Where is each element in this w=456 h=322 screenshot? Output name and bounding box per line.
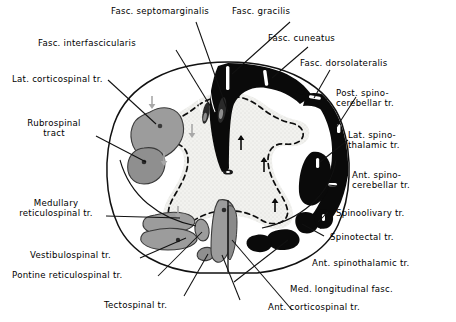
label-spinoolivary: Spinoolivary tr. — [336, 208, 405, 218]
label-fasc-cuneatus: Fasc. cuneatus — [268, 33, 335, 43]
label-lat-corticospinal: Lat. corticospinal tr. — [12, 74, 103, 84]
label-fasc-dorsolateralis: Fasc. dorsolateralis — [300, 58, 387, 68]
label-post-spinocerebellar: Post. spino- cerebellar tr. — [336, 88, 394, 108]
label-ant-corticospinal: Ant. corticospinal tr. — [268, 302, 360, 312]
label-fasc-gracilis: Fasc. gracilis — [232, 6, 290, 16]
label-spinotectal: Spinotectal tr. — [330, 232, 394, 242]
label-med-longitudinal-fasc: Med. longitudinal fasc. — [290, 284, 393, 294]
gracilis-marker — [226, 66, 229, 90]
label-fasc-septomarginalis: Fasc. septomarginalis — [70, 6, 250, 16]
ant-spinothalamic-shape — [246, 234, 272, 252]
label-ant-spinocerebellar: Ant. spino- cerebellar tr. — [352, 170, 410, 190]
label-tectospinal: Tectospinal tr. — [104, 300, 167, 310]
label-pontine-reticulospinal: Pontine reticulospinal tr. — [12, 270, 123, 280]
figure-canvas: Fasc. septomarginalis Fasc. gracilis Fas… — [0, 0, 456, 322]
vestibulospinal-shape — [141, 228, 197, 250]
label-medullary-reticulospinal: Medullary reticulospinal tr. — [4, 198, 108, 218]
spinotectal-shape — [267, 229, 300, 250]
label-rubrospinal: Rubrospinal tract — [6, 118, 102, 138]
label-vestibulospinal: Vestibulospinal tr. — [30, 250, 111, 260]
label-ant-spinothalamic: Ant. spinothalamic tr. — [312, 258, 409, 268]
label-lat-spinothalamic: Lat. spino- thalamic tr. — [348, 130, 400, 150]
label-fasc-interfascicularis: Fasc. interfascicularis — [38, 38, 136, 48]
